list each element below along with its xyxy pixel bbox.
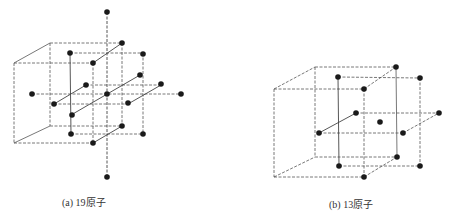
atom — [104, 174, 110, 180]
caption-figure-a: (a) 19原子 — [62, 194, 106, 209]
atom — [140, 51, 146, 57]
atom — [104, 9, 110, 15]
atom — [436, 110, 442, 116]
atom — [417, 75, 423, 81]
atom — [335, 74, 341, 80]
atom — [353, 110, 359, 116]
atom — [90, 140, 96, 146]
atoms-a — [29, 9, 184, 180]
cube-b-edges — [274, 67, 439, 177]
atom — [83, 82, 89, 88]
atom — [417, 163, 423, 169]
atom — [316, 130, 322, 136]
atom — [125, 100, 131, 106]
atom — [336, 163, 342, 169]
atom — [29, 91, 35, 97]
atom-center — [377, 119, 383, 125]
figure-b-13-atoms — [274, 64, 442, 180]
atom — [68, 131, 74, 137]
atom — [393, 64, 399, 70]
atom — [178, 91, 184, 97]
atom — [67, 50, 73, 56]
atom — [394, 154, 400, 160]
atom — [69, 112, 75, 118]
cube-b-solid-lines — [319, 77, 356, 166]
atom — [119, 123, 125, 129]
atom — [51, 101, 57, 107]
figure-a-19-atoms — [14, 9, 184, 180]
caption-figure-b: (b) 13原子 — [329, 196, 373, 211]
cube-a-edges — [14, 43, 181, 143]
atom — [137, 72, 143, 78]
atom — [361, 174, 367, 180]
diagram-canvas — [0, 0, 449, 222]
atom — [119, 40, 125, 46]
atom — [158, 81, 164, 87]
atom — [140, 131, 146, 137]
atom — [90, 60, 96, 66]
atom — [400, 130, 406, 136]
atom — [361, 86, 367, 92]
atom-center — [104, 91, 110, 97]
